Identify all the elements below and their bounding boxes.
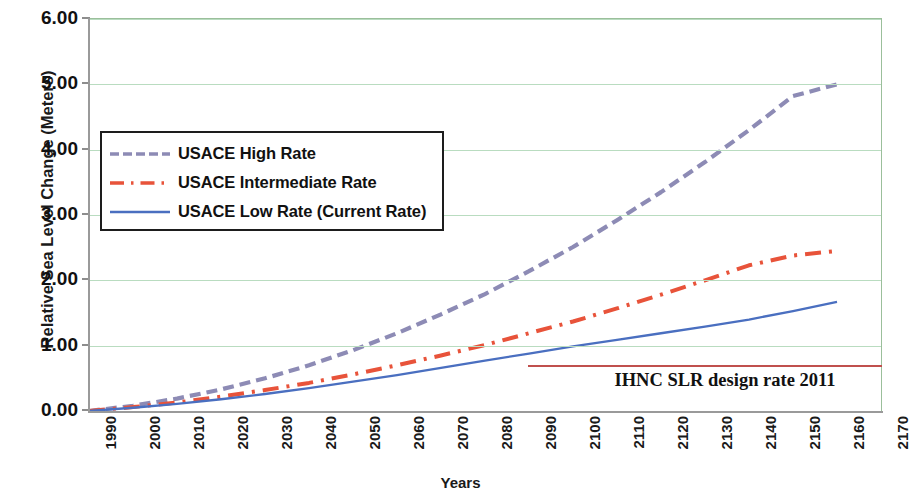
gridline bbox=[89, 346, 881, 347]
ihnc-design-rate-line bbox=[528, 365, 882, 367]
x-axis-tick-label: 2130 bbox=[718, 416, 735, 476]
y-axis-tick-label: 5.00 bbox=[0, 72, 78, 94]
x-axis-tick-label: 2080 bbox=[498, 416, 515, 476]
series-line bbox=[89, 302, 837, 411]
x-axis-tick-label: 2020 bbox=[234, 416, 251, 476]
y-axis-tick-label: 0.00 bbox=[0, 399, 78, 421]
x-axis-spine bbox=[88, 411, 883, 413]
legend-item-intermediate: USACE Intermediate Rate bbox=[102, 168, 442, 197]
y-axis-spine bbox=[88, 18, 90, 413]
x-axis-tick-label: 2120 bbox=[674, 416, 691, 476]
gridline bbox=[89, 84, 881, 85]
gridline bbox=[89, 280, 881, 281]
y-axis-tick-label: 4.00 bbox=[0, 138, 78, 160]
legend-swatch-intermediate-icon bbox=[110, 176, 170, 190]
x-axis-tick-label: 2000 bbox=[146, 416, 163, 476]
x-axis-tick-label: 2030 bbox=[278, 416, 295, 476]
x-axis-tick-label: 2160 bbox=[850, 416, 867, 476]
x-axis-tick-label: 2070 bbox=[454, 416, 471, 476]
legend-swatch-high-icon bbox=[110, 147, 170, 161]
ihnc-design-rate-label: IHNC SLR design rate 2011 bbox=[560, 370, 890, 391]
legend-item-high: USACE High Rate bbox=[102, 139, 442, 168]
x-axis-tick-label: 2170 bbox=[894, 416, 911, 476]
y-axis-tick-label: 6.00 bbox=[0, 7, 78, 29]
y-axis-tick-label: 1.00 bbox=[0, 334, 78, 356]
legend-item-low: USACE Low Rate (Current Rate) bbox=[102, 197, 442, 226]
x-axis-tick-label: 2010 bbox=[190, 416, 207, 476]
sea-level-rise-chart: Relative Sea Level Change (Meters) Relat… bbox=[0, 0, 921, 499]
x-axis-tick-label: 2040 bbox=[322, 416, 339, 476]
x-axis-tick-label: 2150 bbox=[806, 416, 823, 476]
legend-label-high: USACE High Rate bbox=[178, 144, 316, 163]
x-axis-tick-label: 2060 bbox=[410, 416, 427, 476]
x-axis-tick-label: 2110 bbox=[630, 416, 647, 476]
x-axis-title: Years bbox=[0, 474, 921, 491]
x-axis-tick-label: 1990 bbox=[102, 416, 119, 476]
x-axis-tick-label: 2140 bbox=[762, 416, 779, 476]
y-axis-tick-label: 2.00 bbox=[0, 268, 78, 290]
x-axis-tick-label: 2100 bbox=[586, 416, 603, 476]
y-axis-tick-label: 3.00 bbox=[0, 203, 78, 225]
legend-label-intermediate: USACE Intermediate Rate bbox=[178, 173, 377, 192]
x-axis-tick-label: 2050 bbox=[366, 416, 383, 476]
x-axis-tick-label: 2090 bbox=[542, 416, 559, 476]
legend-swatch-low-icon bbox=[110, 205, 170, 219]
legend: USACE High Rate USACE Intermediate Rate … bbox=[100, 131, 444, 231]
legend-label-low: USACE Low Rate (Current Rate) bbox=[178, 202, 426, 221]
gridline bbox=[89, 19, 881, 20]
